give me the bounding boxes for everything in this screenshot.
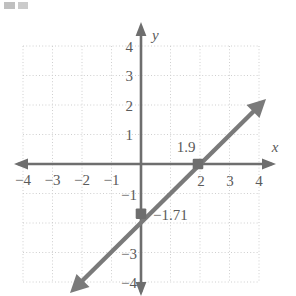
y-tick-label--1: −1 bbox=[121, 187, 137, 203]
x-tick-label--1: −1 bbox=[104, 172, 120, 188]
x-tick-label--4: −4 bbox=[15, 172, 31, 188]
x-intercept-annotation: 1.9 bbox=[177, 139, 196, 155]
x-axis-name-label: x bbox=[271, 139, 279, 155]
x-tick-label--2: −2 bbox=[74, 172, 90, 188]
x-axis-arrow-right-icon bbox=[262, 159, 276, 170]
y-axis-arrow-up-icon bbox=[136, 22, 147, 36]
x-tick-label--3: −3 bbox=[45, 172, 61, 188]
y-tick-label-2: 2 bbox=[126, 98, 134, 114]
x-tick-label-4: 4 bbox=[255, 173, 263, 189]
x-axis-tick-labels: −4 −3 −2 −1 2 3 4 bbox=[15, 172, 263, 189]
y-tick-label-4: 4 bbox=[126, 39, 134, 55]
graph-figure: −4 −3 −2 −1 2 3 4 4 3 2 1 −1 −3 −4 y x 1… bbox=[0, 0, 296, 296]
coordinate-plane: −4 −3 −2 −1 2 3 4 4 3 2 1 −1 −3 −4 y x 1… bbox=[0, 0, 296, 296]
x-axis-arrow-left-icon bbox=[14, 159, 28, 170]
x-tick-label-3: 3 bbox=[226, 173, 234, 189]
y-tick-label--4: −4 bbox=[121, 275, 137, 291]
point-marker-x-intercept bbox=[193, 159, 204, 170]
y-axis-name-label: y bbox=[150, 27, 159, 43]
y-axis-arrow-down-icon bbox=[136, 282, 147, 296]
y-tick-label-1: 1 bbox=[126, 127, 134, 143]
point-marker-y-intercept bbox=[136, 208, 147, 219]
y-intercept-annotation: −1.71 bbox=[153, 207, 188, 223]
y-tick-label-3: 3 bbox=[126, 68, 134, 84]
plotted-line-group bbox=[70, 99, 266, 293]
axis-arrowheads bbox=[14, 22, 276, 296]
plotted-line bbox=[81, 108, 257, 282]
y-tick-label--3: −3 bbox=[121, 246, 137, 262]
x-tick-label-2: 2 bbox=[197, 173, 205, 189]
